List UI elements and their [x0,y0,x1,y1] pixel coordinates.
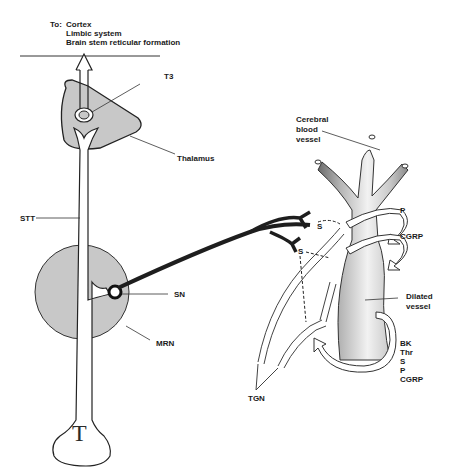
label-thalamus: Thalamus [177,154,214,164]
destination-brainstem: Brain stem reticular formation [66,38,180,48]
label-mrn: MRN [156,339,174,349]
label-tgn: TGN [248,394,265,404]
label-s-lower: S [298,247,303,257]
label-cerebral-3: vessel [296,135,320,145]
label-cgrp: CGRP [400,232,423,242]
tgn-fiber-descending [320,282,336,322]
label-p: P [400,206,405,216]
mrn-leader [126,326,150,340]
thalamus-leader [130,136,175,154]
label-t3: T3 [164,72,173,82]
destination-prefix: To: [50,20,62,30]
label-sn: SN [174,290,185,300]
label-s-upper: S [317,222,322,232]
s-release-arrow-down [300,256,306,322]
mediator-cgrp: CGRP [400,375,423,385]
vessel-leader [322,131,380,150]
diagram-drawing [0,0,452,470]
label-dilated-1: Dilated [406,292,433,302]
label-cerebral-2: blood [296,125,318,135]
label-t-body: T [72,420,87,447]
label-dilated-2: vessel [406,302,430,312]
trigeminovascular-diagram: To: Cortex Limbic system Brain stem reti… [0,0,452,470]
label-stt: STT [20,214,35,224]
sn-fiber [118,224,310,288]
label-cerebral-1: Cerebral [296,115,328,125]
